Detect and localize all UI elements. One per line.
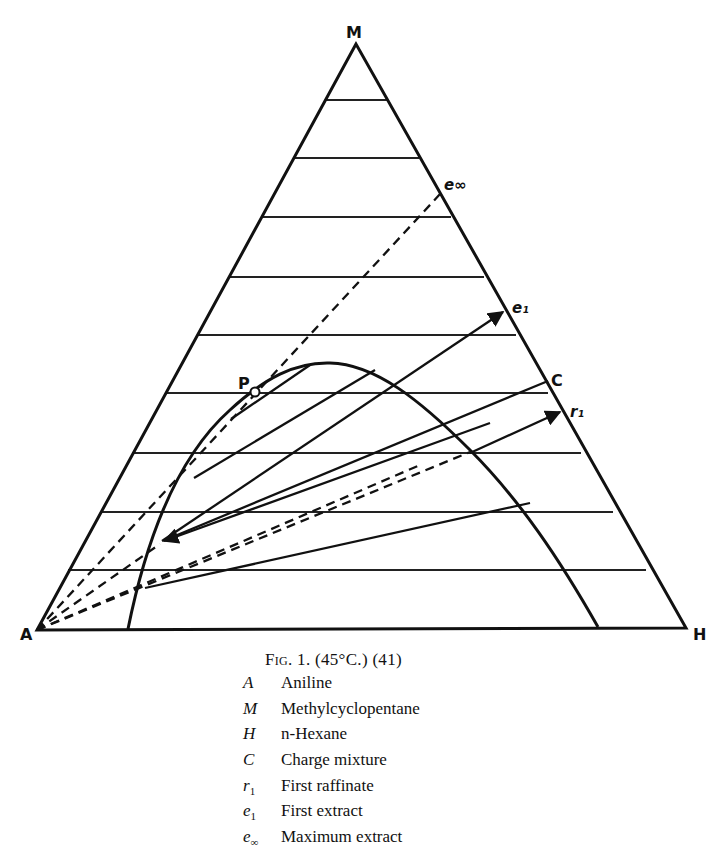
figure-caption: Fig. 1. (45°C.) (41) [265, 650, 402, 670]
legend-item: H n-Hexane [243, 724, 420, 750]
legend-symbol: r1 [243, 776, 281, 802]
legend-item: r1 First raffinate [243, 776, 420, 802]
vertex-label-a: A [20, 625, 33, 640]
plait-point-label: P [238, 374, 250, 393]
legend-item: C Charge mixture [243, 750, 420, 776]
figure-number: Fig. 1. [265, 650, 310, 669]
legend-symbol: H [243, 724, 281, 750]
legend-text: Maximum extract [281, 827, 402, 849]
legend-item: M Methylcyclopentane [243, 699, 420, 725]
vertex-label-h: H [693, 625, 706, 640]
plait-point-marker [251, 388, 260, 397]
operating-lines [162, 312, 560, 541]
legend-item: e∞ Maximum extract [243, 827, 420, 849]
legend-symbol: e1 [243, 801, 281, 827]
point-label-e-inf: e∞ [444, 176, 467, 194]
legend: A Aniline M Methylcyclopentane H n-Hexan… [243, 673, 420, 849]
ternary-diagram: M A H P e∞ e₁ C r₁ [0, 0, 718, 640]
legend-symbol: M [243, 699, 281, 725]
legend-symbol: C [243, 750, 281, 776]
triangle-outline [37, 44, 686, 630]
legend-text: First extract [281, 801, 363, 827]
legend-symbol: A [243, 673, 281, 699]
legend-text: Charge mixture [281, 750, 387, 776]
figure-details: (45°C.) (41) [315, 650, 402, 669]
point-label-r1: r₁ [570, 403, 584, 421]
legend-text: Methylcyclopentane [281, 699, 420, 725]
legend-symbol: e∞ [243, 827, 281, 849]
legend-item: A Aniline [243, 673, 420, 699]
legend-text: n-Hexane [281, 724, 347, 750]
vertex-label-m: M [346, 23, 362, 42]
point-label-e1: e₁ [512, 299, 529, 317]
tie-lines [145, 365, 548, 588]
legend-item: e1 First extract [243, 801, 420, 827]
legend-text: First raffinate [281, 776, 374, 802]
legend-text: Aniline [281, 673, 332, 699]
point-label-c: C [551, 371, 563, 390]
